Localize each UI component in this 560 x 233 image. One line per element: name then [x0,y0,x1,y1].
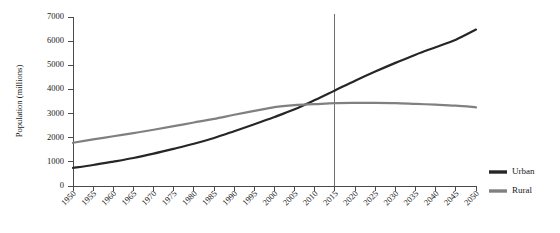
population-line-chart: 01000200030004000500060007000 Population… [0,0,560,233]
x-tick-label: 1980 [180,188,199,207]
x-tick-label: 2045 [442,188,461,207]
x-tick-label: 1950 [59,188,78,207]
y-tick-group: 01000200030004000500060007000 [47,11,73,190]
x-tick-label: 2035 [401,188,420,207]
y-tick-label: 1000 [47,156,64,166]
x-axis: 1950195519601965197019751980198519901995… [59,186,481,207]
x-tick-label: 1960 [99,188,118,207]
x-tick-label: 2020 [341,188,360,207]
legend-label-urban: Urban [512,166,535,176]
series-layer [73,30,476,168]
series-line-urban [73,30,476,168]
x-tick-label: 1995 [240,188,259,207]
y-tick-label: 2000 [47,132,64,142]
x-tick-label: 2010 [301,188,320,207]
x-tick-label: 2050 [462,188,481,207]
x-tick-label: 2000 [260,188,279,207]
chart-container: 01000200030004000500060007000 Population… [0,0,560,233]
x-tick-group: 1950195519601965197019751980198519901995… [59,186,481,207]
x-tick-label: 2040 [422,188,441,207]
y-axis-title: Population (millions) [14,65,24,138]
y-tick-label: 0 [60,180,64,190]
x-tick-label: 2030 [381,188,400,207]
y-tick-label: 7000 [47,11,64,21]
x-tick-label: 1975 [160,188,179,207]
x-tick-label: 1990 [220,188,239,207]
x-tick-label: 1955 [79,188,98,207]
y-axis: 01000200030004000500060007000 Population… [14,11,73,190]
x-tick-label: 2005 [280,188,299,207]
chart-legend: UrbanRural [489,166,535,195]
x-tick-label: 1985 [200,188,219,207]
x-tick-label: 2025 [361,188,380,207]
x-tick-label: 2015 [321,188,340,207]
y-tick-label: 4000 [47,83,64,93]
x-tick-label: 1965 [119,188,138,207]
y-tick-label: 3000 [47,108,64,118]
y-tick-label: 5000 [47,59,64,69]
x-tick-label: 1970 [139,188,158,207]
y-tick-label: 6000 [47,35,64,45]
series-line-rural [73,103,476,143]
legend-label-rural: Rural [512,185,532,195]
